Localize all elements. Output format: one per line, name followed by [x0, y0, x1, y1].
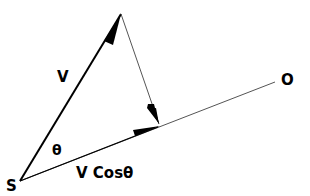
component-arrowhead-icon [133, 126, 160, 136]
velocity-arrowhead-icon [104, 14, 121, 45]
label-source: S [6, 177, 17, 195]
vector-diagram: S O V θ V Cosθ [0, 0, 310, 196]
label-component: V Cosθ [76, 164, 133, 182]
label-angle: θ [52, 142, 62, 158]
label-observer: O [281, 71, 294, 89]
projection-arrowhead-tip-icon [150, 108, 159, 124]
label-velocity: V [57, 68, 69, 86]
